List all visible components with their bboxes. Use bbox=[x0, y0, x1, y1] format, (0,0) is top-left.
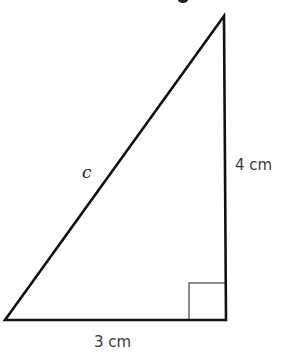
vertical-side-label: 4 cm bbox=[235, 156, 272, 174]
right-triangle bbox=[5, 16, 226, 320]
clipped-glyph-fragment bbox=[178, 0, 188, 3]
right-angle-marker bbox=[189, 283, 226, 320]
hypotenuse-label: c bbox=[82, 162, 92, 182]
triangle-diagram: c 4 cm 3 cm bbox=[0, 0, 284, 363]
horizontal-side-label: 3 cm bbox=[94, 333, 131, 351]
